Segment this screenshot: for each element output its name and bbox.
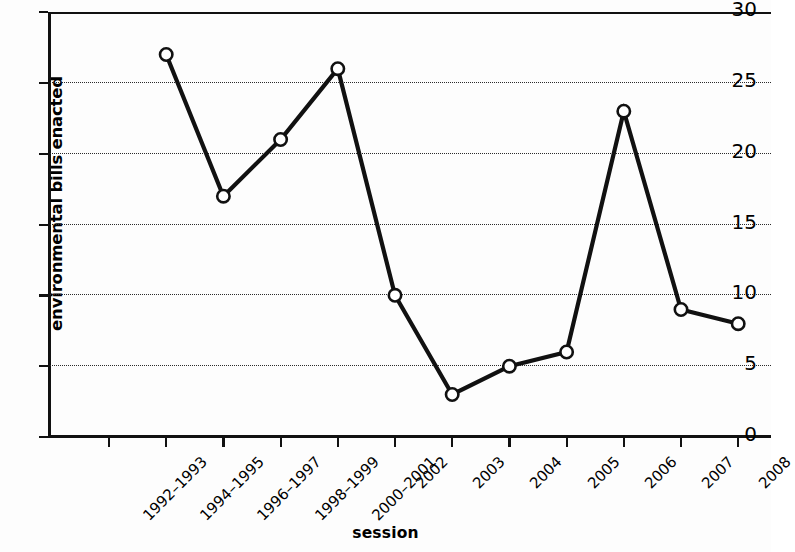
data-point-marker [732,318,744,330]
data-series [48,12,771,437]
x-axis-tick [394,436,396,447]
x-axis-tick [165,436,167,447]
y-axis-tick [39,436,48,438]
x-axis-tick-label: 2005 [584,453,623,492]
x-axis-tick [108,436,110,447]
x-axis-tick-label: 2004 [526,453,565,492]
data-point-marker [618,105,630,117]
data-point-marker [332,63,344,75]
y-axis-tick [39,224,48,226]
x-axis-tick [222,436,224,447]
y-axis-tick [39,365,48,367]
data-point-marker [675,303,687,315]
y-axis-tick [39,82,48,84]
data-point-marker [503,360,515,372]
x-axis-tick-label: 2002 [412,453,451,492]
data-point-marker [274,133,286,145]
x-axis-tick [280,436,282,447]
data-point-marker [160,48,172,60]
x-axis-tick [737,436,739,447]
series-line [166,55,738,395]
x-axis-tick [566,436,568,447]
x-axis-tick [337,436,339,447]
y-axis-tick [39,11,48,13]
data-point-marker [446,388,458,400]
x-axis-tick [680,436,682,447]
x-axis-tick-label: 2003 [469,453,508,492]
plot-area: 051015202530 1992–19931994–19951996–1997… [48,12,771,437]
x-axis-tick [451,436,453,447]
x-axis-tick-label: 2007 [698,453,737,492]
x-axis-tick-label: 2006 [641,453,680,492]
x-axis-tick [623,436,625,447]
y-axis-tick [39,153,48,155]
x-axis-tick-label: 2008 [755,453,794,492]
data-point-marker [389,289,401,301]
x-axis-title: session [0,524,771,542]
y-axis-tick [39,294,48,296]
data-point-marker [217,190,229,202]
data-point-marker [560,346,572,358]
x-axis-tick [508,436,510,447]
